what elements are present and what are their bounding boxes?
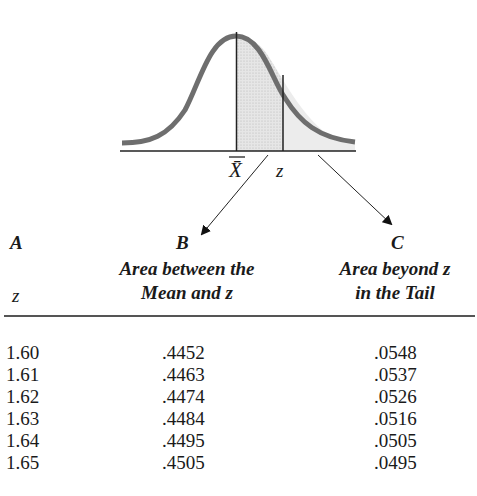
area-between-value: .4463 xyxy=(162,364,205,386)
z-label: z xyxy=(276,160,283,182)
column-c-title-line1: Area beyond z xyxy=(320,257,470,281)
z-value: 1.64 xyxy=(6,430,39,452)
area-between-value: .4452 xyxy=(162,342,205,364)
table-row: 1.64 .4495 .0505 xyxy=(0,430,477,452)
z-value: 1.65 xyxy=(6,452,39,474)
z-value: 1.63 xyxy=(6,408,39,430)
arrow-to-column-c xyxy=(318,155,391,224)
column-a-title: z xyxy=(12,284,19,308)
area-beyond-value: .0526 xyxy=(374,386,417,408)
mean-label: X̄ xyxy=(229,158,242,183)
area-beyond-value: .0548 xyxy=(374,342,417,364)
z-value: 1.62 xyxy=(6,386,39,408)
area-beyond-value: .0516 xyxy=(374,408,417,430)
normal-curve-diagram xyxy=(0,0,477,260)
table-row: 1.62 .4474 .0526 xyxy=(0,386,477,408)
column-c-letter: C xyxy=(391,231,404,255)
column-b-title-line1: Area between the xyxy=(94,257,280,281)
table-row: 1.63 .4484 .0516 xyxy=(0,408,477,430)
header-rule xyxy=(4,315,475,317)
area-between-value: .4505 xyxy=(162,452,205,474)
area-beyond-value: .0495 xyxy=(374,452,417,474)
table-row: 1.61 .4463 .0537 xyxy=(0,364,477,386)
z-value: 1.61 xyxy=(6,364,39,386)
z-value: 1.60 xyxy=(6,342,39,364)
area-beyond-value: .0537 xyxy=(374,364,417,386)
area-beyond-value: .0505 xyxy=(374,430,417,452)
area-between-value: .4474 xyxy=(162,386,205,408)
column-b-letter: B xyxy=(176,231,189,255)
area-between-value: .4495 xyxy=(162,430,205,452)
table-row: 1.60 .4452 .0548 xyxy=(0,342,477,364)
column-b-title-line2: Mean and z xyxy=(94,281,280,305)
column-c-title-line2: in the Tail xyxy=(320,281,470,305)
table-row: 1.65 .4505 .0495 xyxy=(0,452,477,474)
area-between-value: .4484 xyxy=(162,408,205,430)
column-a-letter: A xyxy=(10,231,23,255)
